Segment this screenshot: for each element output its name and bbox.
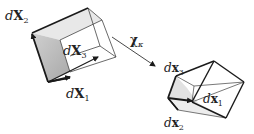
deformation-diagram: dX2 dX3 dX1 χκ dx3 dx1 dx2 — [0, 0, 254, 134]
label-dX1: dX1 — [66, 86, 90, 103]
label-dX2: dX2 — [5, 8, 29, 25]
reference-top-face — [32, 8, 102, 40]
label-chi-kappa: χκ — [130, 33, 144, 49]
label-dx3: dx3 — [164, 61, 184, 77]
label-dx1: dx1 — [203, 92, 223, 108]
label-dX3: dX3 — [63, 43, 87, 60]
label-dx2: dx2 — [164, 116, 184, 132]
